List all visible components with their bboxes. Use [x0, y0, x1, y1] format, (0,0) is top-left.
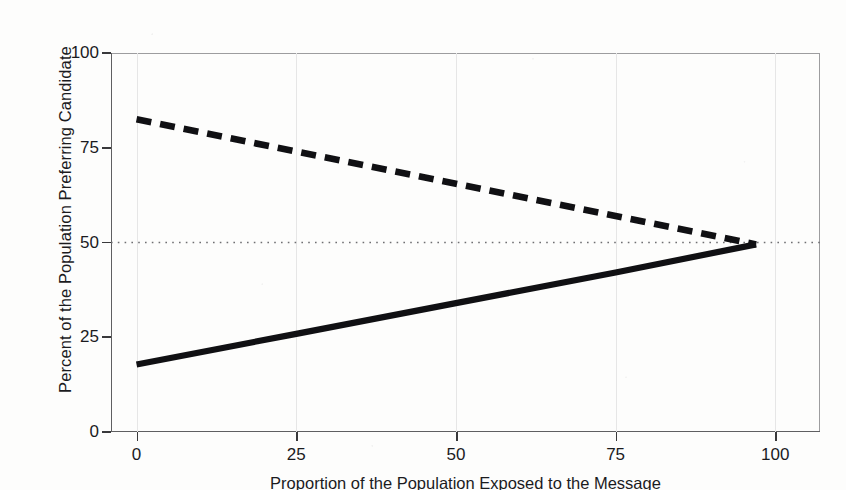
- x-tick-label-0: 0: [107, 445, 167, 465]
- x-tick-label-25: 25: [266, 445, 326, 465]
- y-tick-label-0: 0: [49, 422, 99, 442]
- y-tick-mark-75: [102, 147, 111, 149]
- y-tick-label-75: 75: [49, 138, 99, 158]
- x-tick-mark-50: [456, 432, 458, 441]
- y-tick-mark-100: [102, 52, 111, 54]
- x-tick-mark-75: [616, 432, 618, 441]
- y-tick-label-50: 50: [49, 233, 99, 253]
- y-tick-label-100: 100: [49, 43, 99, 63]
- x-tick-label-50: 50: [426, 445, 486, 465]
- y-tick-label-25: 25: [49, 327, 99, 347]
- series-layer: [111, 53, 820, 432]
- x-tick-mark-100: [775, 432, 777, 441]
- x-tick-mark-25: [296, 432, 298, 441]
- y-tick-mark-0: [102, 431, 111, 433]
- chart-figure: Percent of the Population Preferring Can…: [0, 0, 846, 490]
- y-axis-title: Percent of the Population Preferring Can…: [56, 10, 75, 430]
- x-axis-title: Proportion of the Population Exposed to …: [111, 474, 820, 490]
- declining-candidate-line: [137, 119, 757, 244]
- plot-area: 0255075100 0255075100: [111, 53, 820, 432]
- x-tick-mark-0: [137, 432, 139, 441]
- rising-candidate-line: [137, 244, 757, 364]
- x-tick-label-100: 100: [745, 445, 805, 465]
- x-tick-label-75: 75: [586, 445, 646, 465]
- y-tick-mark-25: [102, 336, 111, 338]
- y-tick-mark-50: [102, 242, 111, 244]
